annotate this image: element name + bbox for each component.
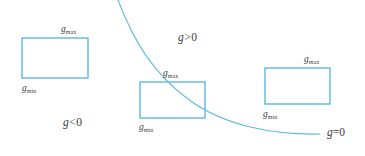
box-middle — [140, 82, 205, 118]
level-curve-g-equals-zero — [118, 0, 320, 134]
figure-canvas: gmax gmin gmax gmin gmax gmin g>0 g<0 g=… — [0, 0, 365, 156]
box-right — [265, 68, 330, 104]
figure-vector-layer — [0, 0, 365, 156]
box-left — [22, 38, 88, 78]
